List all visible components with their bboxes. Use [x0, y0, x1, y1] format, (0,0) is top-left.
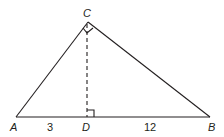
label-c: C [83, 7, 91, 19]
length-db: 12 [144, 121, 156, 133]
triangle-diagram: C A D B 3 12 [0, 0, 224, 137]
length-ad: 3 [47, 121, 53, 133]
label-b: B [208, 121, 215, 133]
right-angle-mark-d [87, 110, 94, 117]
label-d: D [82, 121, 90, 133]
side-bc [88, 22, 210, 117]
label-a: A [9, 121, 17, 133]
side-ac [16, 22, 88, 117]
right-angle-mark-c [83, 28, 93, 33]
